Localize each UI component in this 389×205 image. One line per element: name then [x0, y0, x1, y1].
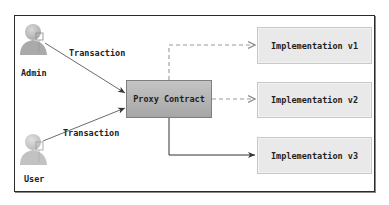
edge-label-user-transaction: Transaction: [63, 128, 119, 138]
implementation-v1-label: Implementation v1: [271, 41, 358, 51]
implementation-v2-node[interactable]: Implementation v2: [257, 82, 372, 118]
edge-proxy-to-impl1: [169, 45, 255, 80]
edge-proxy-to-impl3: [169, 117, 255, 155]
diagram-canvas: Admin User Transaction Transaction Proxy…: [0, 0, 389, 205]
edge-label-admin-transaction: Transaction: [69, 48, 125, 58]
implementation-v2-label: Implementation v2: [271, 95, 358, 105]
implementation-v3-label: Implementation v3: [271, 151, 358, 161]
proxy-contract-node[interactable]: Proxy Contract: [126, 80, 212, 118]
proxy-contract-label: Proxy Contract: [133, 94, 205, 104]
implementation-v1-node[interactable]: Implementation v1: [257, 27, 372, 64]
implementation-v3-node[interactable]: Implementation v3: [257, 137, 372, 174]
actor-label-admin: Admin: [21, 68, 47, 78]
user-user-icon: [20, 134, 47, 165]
actor-label-user: User: [24, 174, 44, 184]
admin-user-icon: [20, 24, 47, 55]
